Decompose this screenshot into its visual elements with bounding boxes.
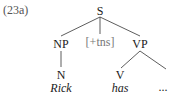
- edge-vp-v: [121, 51, 140, 68]
- node-np: NP: [53, 38, 68, 50]
- node-vp: VP: [132, 38, 147, 50]
- node-n: N: [57, 69, 66, 81]
- node-tense-feature: [+tns]: [86, 36, 115, 48]
- edge-vp-rest: [140, 51, 166, 69]
- node-s: S: [97, 5, 104, 17]
- edge-s-vp: [100, 17, 140, 36]
- word-has: has: [112, 82, 129, 94]
- word-rick: Rick: [50, 82, 71, 94]
- node-v: V: [116, 69, 125, 81]
- edge-s-np: [61, 17, 100, 36]
- ellipsis-rest: ...: [159, 81, 168, 93]
